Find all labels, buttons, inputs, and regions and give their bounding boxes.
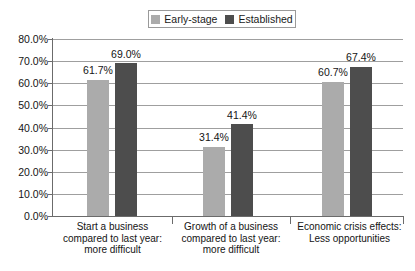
category-label-2-line-0: Economic crisis effects: — [290, 221, 409, 233]
category-label-1-line-1: compared to last year: — [172, 233, 290, 245]
legend-swatch-early-stage — [151, 15, 160, 24]
y-tick-label-0: 0.0% — [2, 211, 48, 222]
category-label-0-line-1: compared to last year: — [53, 233, 172, 245]
category-label-0-line-2: more difficult — [53, 244, 172, 256]
legend-item-established: Established — [225, 14, 292, 25]
category-label-0-line-0: Start a business — [53, 221, 172, 233]
value-label-early-stage-0: 61.7% — [76, 65, 120, 76]
legend-label-established: Established — [238, 14, 292, 25]
y-axis-labels: 80.0% 70.0% 60.0% 50.0% 40.0% 30.0% 20.0… — [0, 0, 48, 271]
legend-label-early-stage: Early-stage — [164, 14, 217, 25]
y-axis-line — [52, 38, 53, 217]
x-axis-line — [52, 216, 404, 217]
category-label-1-line-0: Growth of a business — [172, 221, 290, 233]
y-tick-label-10: 10.0% — [2, 189, 48, 200]
y-tick-label-60: 60.0% — [2, 78, 48, 89]
bar-chart: Early-stage Established 80.0% 70.0% 60.0… — [0, 0, 415, 271]
bar-early-stage-2 — [322, 82, 344, 216]
category-label-1-line-2: more difficult — [172, 244, 290, 256]
y-tick-label-40: 40.0% — [2, 123, 48, 134]
value-label-established-0: 69.0% — [104, 49, 148, 60]
category-label-2: Economic crisis effects: Less opportunit… — [290, 221, 409, 244]
value-label-early-stage-1: 31.4% — [192, 132, 236, 143]
category-label-2-line-1: Less opportunities — [290, 233, 409, 245]
legend-item-early-stage: Early-stage — [151, 14, 217, 25]
bar-established-0 — [115, 63, 137, 216]
bar-established-2 — [350, 67, 372, 216]
y-tick-label-20: 20.0% — [2, 167, 48, 178]
legend-swatch-established — [225, 15, 234, 24]
value-label-established-1: 41.4% — [220, 110, 264, 121]
gridline-80 — [53, 39, 403, 40]
y-tick-label-30: 30.0% — [2, 145, 48, 156]
bar-early-stage-0 — [87, 80, 109, 217]
bar-early-stage-1 — [203, 147, 225, 217]
chart-legend: Early-stage Established — [148, 10, 296, 28]
category-label-1: Growth of a business compared to last ye… — [172, 221, 290, 256]
y-tick-label-50: 50.0% — [2, 100, 48, 111]
value-label-early-stage-2: 60.7% — [311, 67, 355, 78]
category-label-0: Start a business compared to last year: … — [53, 221, 172, 256]
y-tick-label-70: 70.0% — [2, 56, 48, 67]
value-label-established-2: 67.4% — [339, 52, 383, 63]
y-tick-label-80: 80.0% — [2, 34, 48, 45]
